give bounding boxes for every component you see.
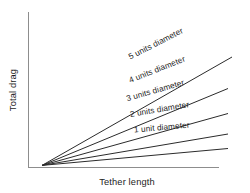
- chart-figure: 1 unit diameter 2 units diameter 3 units…: [0, 0, 250, 193]
- series-label-5-units: 5 units diameter: [127, 26, 185, 61]
- series-line-1-unit: [42, 149, 228, 166]
- x-axis-title: Tether length: [99, 177, 155, 187]
- chart-plot-area: 1 unit diameter 2 units diameter 3 units…: [0, 0, 250, 193]
- series-label-2-units: 2 units diameter: [129, 100, 190, 119]
- series-line-3-units: [42, 114, 228, 166]
- y-axis-title: Total drag: [8, 69, 18, 111]
